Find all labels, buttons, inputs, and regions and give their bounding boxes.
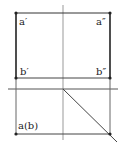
- point-a-front: [14, 11, 17, 14]
- point-b-front: [14, 76, 17, 79]
- label-b-side: b″: [96, 66, 106, 77]
- point-b-side: [108, 76, 111, 79]
- label-b-front: b′: [20, 66, 29, 77]
- label-a-side: a″: [96, 16, 106, 27]
- point-corner: [108, 132, 111, 135]
- point-a-top: [14, 132, 17, 135]
- label-a-top: a(b): [18, 120, 38, 131]
- projection-diagram: a′ a″ b′ b″ a(b): [0, 0, 125, 151]
- point-a-side: [108, 11, 111, 14]
- label-a-front: a′: [19, 16, 28, 27]
